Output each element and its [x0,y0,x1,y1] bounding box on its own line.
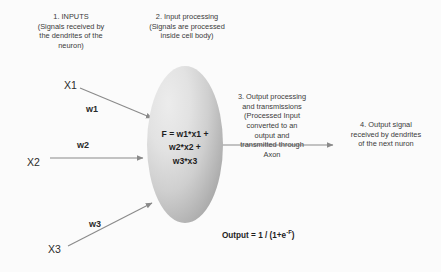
input-label-x2: X2 [27,156,40,168]
annotation-output-signal: 4. Output signal received by dendrites o… [334,120,438,149]
soma-weighted-sum-formula: F = w1*x1 + w2*x2 + w3*x3 [147,128,223,168]
weight-label-w2: w2 [77,140,89,150]
sigmoid-formula-prefix: Output = 1 / (1+e [222,231,286,240]
annotation-input-processing: 2. Input processing (Signals are process… [126,12,248,41]
annotation-output-processing: 3. Output processing and transmissions (… [226,92,318,159]
sigmoid-output-formula: Output = 1 / (1+e-F) [222,229,295,240]
annotation-inputs: 1. INPUTS (Signals received by the dendr… [8,12,134,51]
neuron-diagram: 1. INPUTS (Signals received by the dendr… [0,0,441,272]
input-label-x1: X1 [64,79,77,91]
weight-label-w1: w1 [86,104,98,114]
arrow-w3 [68,203,152,246]
sigmoid-formula-suffix: ) [292,231,295,240]
input-label-x3: X3 [48,243,61,255]
weight-label-w3: w3 [89,219,101,229]
